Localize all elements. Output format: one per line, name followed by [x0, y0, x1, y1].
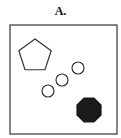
- circle-shape: [72, 62, 84, 74]
- pentagon-shape: [19, 39, 51, 70]
- figure-canvas: [0, 0, 121, 138]
- circle-shape: [56, 74, 68, 86]
- octagon-shape: [77, 98, 101, 122]
- figure-frame: [10, 25, 117, 134]
- circle-shape: [42, 85, 54, 97]
- shapes-group: [19, 39, 101, 122]
